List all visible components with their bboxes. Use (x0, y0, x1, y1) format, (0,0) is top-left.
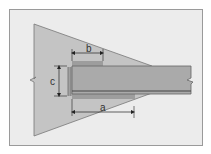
beam (72, 66, 193, 94)
dimension-a-label: a (100, 102, 106, 113)
end-plate (67, 67, 72, 96)
bottom-embed-block (72, 94, 135, 99)
top-embed-block (72, 61, 103, 66)
dimension-b-label: b (86, 43, 92, 54)
dimension-c-label: c (50, 76, 55, 87)
beam-support-diagram: b c a (0, 0, 211, 154)
